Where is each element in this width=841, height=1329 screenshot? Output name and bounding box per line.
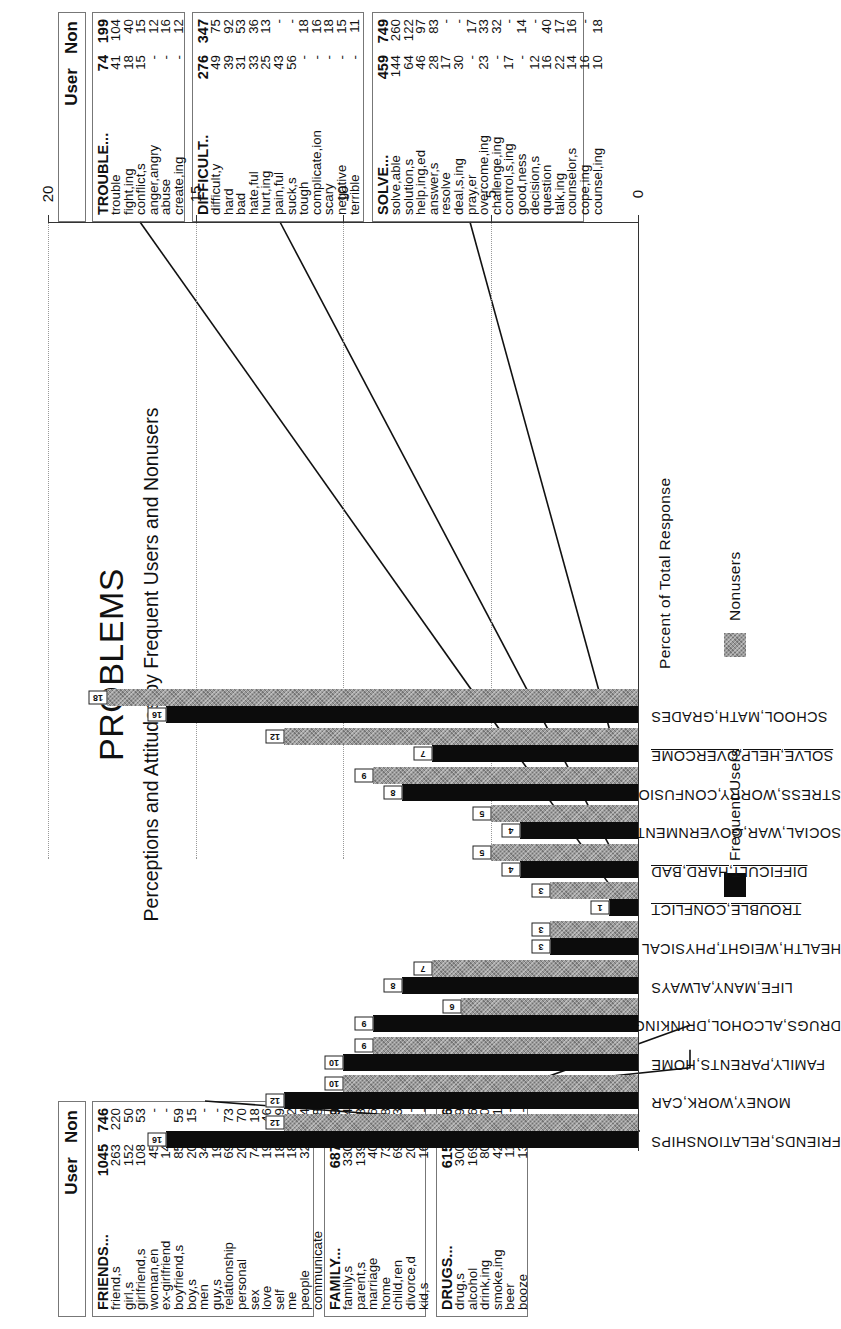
- gridline: [48, 223, 49, 859]
- category-label: FRIENDS,RELATIONSHIPS: [651, 1134, 841, 1150]
- y-tick-label: 5: [482, 179, 499, 209]
- value-label-nonusers: 6: [443, 1000, 462, 1014]
- value-label-frequent-users: 12: [266, 1094, 285, 1108]
- bar-frequent-users: [520, 822, 638, 839]
- bar-frequent-users: [520, 861, 638, 878]
- y-tick-label: 20: [39, 179, 56, 209]
- bar-frequent-users: [402, 784, 638, 801]
- category-label: MONEY,WORK,CAR: [651, 1095, 841, 1111]
- bar-nonusers: [491, 805, 639, 822]
- value-label-nonusers: 5: [472, 845, 491, 859]
- category-label: SCHOOL,MATH,GRADES: [651, 709, 841, 725]
- bar-nonusers: [343, 1075, 638, 1092]
- bar-nonusers: [284, 728, 638, 745]
- y-tick-label: 0: [629, 179, 646, 209]
- y-axis-line: [48, 222, 638, 223]
- category-label: SOLVE,HELP,OVERCOME: [651, 748, 841, 764]
- y-tick: [638, 215, 639, 223]
- value-label-frequent-users: 4: [502, 862, 521, 876]
- value-label-nonusers: 18: [89, 691, 108, 705]
- bar-nonusers: [373, 767, 639, 784]
- value-label-frequent-users: 8: [384, 978, 403, 992]
- value-label-nonusers: 10: [325, 1077, 344, 1091]
- value-label-frequent-users: 8: [384, 785, 403, 799]
- value-label-frequent-users: 4: [502, 824, 521, 838]
- value-label-nonusers: 9: [354, 768, 373, 782]
- value-label-frequent-users: 10: [325, 1055, 344, 1069]
- category-label: FAMILY,PARENTS,HOME: [651, 1057, 841, 1073]
- value-label-frequent-users: 9: [354, 1017, 373, 1031]
- bar-nonusers: [432, 960, 639, 977]
- bar-frequent-users: [402, 977, 638, 994]
- bar-nonusers: [284, 1114, 638, 1131]
- bar-nonusers: [550, 921, 639, 938]
- value-label-frequent-users: 3: [531, 940, 550, 954]
- gridline: [343, 223, 344, 859]
- value-label-frequent-users: 1: [590, 901, 609, 915]
- value-label-frequent-users: 16: [148, 708, 167, 722]
- x-axis-line: [638, 223, 639, 1151]
- category-label: LIFE,MANY,ALWAYS: [651, 980, 841, 996]
- bar-frequent-users: [373, 1015, 639, 1032]
- bar-nonusers: [461, 998, 638, 1015]
- bar-nonusers: [107, 689, 638, 706]
- value-label-nonusers: 9: [354, 1038, 373, 1052]
- category-label: DIFFICULT,HARD,BAD: [651, 864, 841, 880]
- bar-frequent-users: [609, 899, 639, 916]
- category-label: STRESS,WORRY,CONFUSION: [651, 787, 841, 803]
- value-label-nonusers: 12: [266, 1116, 285, 1130]
- bar-frequent-users: [343, 1054, 638, 1071]
- category-label: SOCIAL,WAR,GOVERNMENT: [651, 825, 841, 841]
- bar-frequent-users: [432, 745, 639, 762]
- bar-nonusers: [550, 882, 639, 899]
- value-label-nonusers: 3: [531, 923, 550, 937]
- value-label-nonusers: 3: [531, 884, 550, 898]
- bar-frequent-users: [284, 1092, 638, 1109]
- bar-frequent-users: [166, 1131, 638, 1148]
- value-label-nonusers: 7: [413, 961, 432, 975]
- bar-frequent-users: [550, 938, 639, 955]
- category-label: TROUBLE,CONFLICT: [651, 902, 841, 918]
- bar-nonusers: [373, 1037, 639, 1054]
- value-label-nonusers: 12: [266, 730, 285, 744]
- bar-frequent-users: [166, 706, 638, 723]
- value-label-frequent-users: 7: [413, 747, 432, 761]
- y-tick-label: 15: [187, 179, 204, 209]
- gridline: [491, 223, 492, 859]
- value-label-frequent-users: 16: [148, 1133, 167, 1147]
- category-label: HEALTH,WEIGHT,PHYSICAL: [651, 941, 841, 957]
- gridline: [196, 223, 197, 859]
- category-label: DRUGS,ALCOHOL,DRINKING: [651, 1018, 841, 1034]
- bar-nonusers: [491, 844, 639, 861]
- value-label-nonusers: 5: [472, 807, 491, 821]
- y-tick-label: 10: [334, 179, 351, 209]
